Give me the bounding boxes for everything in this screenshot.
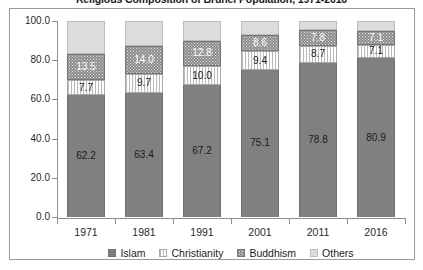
bar-segment-christianity[interactable]: 8.7 <box>299 46 337 63</box>
bar-value-label: 9.4 <box>253 56 267 66</box>
y-axis-tick <box>52 21 57 22</box>
bar-column[interactable]: 75.19.48.6 <box>241 21 279 217</box>
bar-value-label: 7.1 <box>369 33 383 43</box>
bar-segment-islam[interactable]: 75.1 <box>241 70 279 217</box>
y-axis-labels: 0.020.040.060.080.0100.0 <box>10 9 50 219</box>
bar-value-label: 12.8 <box>192 48 211 58</box>
x-axis-labels: 197119811991200120112016 <box>57 226 405 242</box>
bar-value-label: 63.4 <box>134 150 153 160</box>
x-axis-tick-label: 1991 <box>190 226 213 238</box>
bar-segment-islam[interactable]: 62.2 <box>67 95 105 217</box>
legend-item-others[interactable]: Others <box>310 247 354 259</box>
legend-swatch-icon <box>310 249 318 257</box>
bar-segment-buddhism[interactable]: 13.5 <box>67 54 105 80</box>
bar-segment-others[interactable] <box>183 21 221 41</box>
y-axis-tick-label: 40.0 <box>14 133 50 144</box>
bar-segment-christianity[interactable]: 9.7 <box>125 74 163 93</box>
bar-value-label: 62.2 <box>76 151 95 161</box>
bar-segment-islam[interactable]: 67.2 <box>183 85 221 217</box>
y-axis-tick <box>52 178 57 179</box>
bar-segment-islam[interactable]: 78.8 <box>299 63 337 217</box>
bar-segment-buddhism[interactable]: 14.0 <box>125 46 163 73</box>
bar-segment-others[interactable] <box>125 21 163 46</box>
bar-value-label: 67.2 <box>192 146 211 156</box>
bar-value-label: 7.7 <box>79 83 93 93</box>
y-axis-tick <box>52 60 57 61</box>
bar-segment-buddhism[interactable]: 8.6 <box>241 35 279 52</box>
bar-value-label: 78.8 <box>308 135 327 145</box>
bar-segment-buddhism[interactable]: 7.1 <box>357 31 395 45</box>
legend-label: Buddhism <box>249 247 296 259</box>
bar-segment-christianity[interactable]: 7.1 <box>357 45 395 59</box>
x-axis-tick-label: 2016 <box>364 226 387 238</box>
bar-column[interactable]: 62.27.713.5 <box>67 21 105 217</box>
bar-segment-christianity[interactable]: 7.7 <box>67 80 105 95</box>
chart-legend: IslamChristianityBuddhismOthers <box>57 245 405 261</box>
bar-value-label: 7.1 <box>369 46 383 56</box>
bar-value-label: 14.0 <box>134 55 153 65</box>
y-axis-tick <box>52 99 57 100</box>
y-axis-tick-label: 20.0 <box>14 172 50 183</box>
bar-segment-christianity[interactable]: 9.4 <box>241 51 279 69</box>
bar-segment-others[interactable] <box>357 21 395 31</box>
bar-column[interactable]: 78.88.77.8 <box>299 21 337 217</box>
x-axis-tick-label: 1981 <box>132 226 155 238</box>
bar-segment-others[interactable] <box>67 21 105 54</box>
x-axis-tick <box>115 219 116 224</box>
x-axis-tick <box>289 219 290 224</box>
bar-value-label: 7.8 <box>311 33 325 43</box>
x-axis-tick-label: 2001 <box>248 226 271 238</box>
y-axis-tick <box>52 217 57 218</box>
x-axis-tick <box>57 219 58 224</box>
x-axis-tick <box>231 219 232 224</box>
bar-column[interactable]: 67.210.012.8 <box>183 21 221 217</box>
x-axis-tick <box>173 219 174 224</box>
x-axis-tick <box>347 219 348 224</box>
bar-segment-others[interactable] <box>241 21 279 35</box>
legend-label: Christianity <box>171 247 223 259</box>
legend-label: Islam <box>120 247 145 259</box>
bar-value-label: 13.5 <box>76 62 95 72</box>
x-axis-tick-label: 1971 <box>74 226 97 238</box>
legend-item-buddhism[interactable]: Buddhism <box>237 247 296 259</box>
bar-value-label: 10.0 <box>192 71 211 81</box>
plot-area: 62.27.713.563.49.714.067.210.012.875.19.… <box>57 21 405 217</box>
y-axis-tick <box>52 139 57 140</box>
bar-segment-christianity[interactable]: 10.0 <box>183 66 221 86</box>
legend-label: Others <box>322 247 354 259</box>
bar-value-label: 75.1 <box>250 138 269 148</box>
legend-item-christianity[interactable]: Christianity <box>159 247 223 259</box>
bar-segment-islam[interactable]: 63.4 <box>125 93 163 217</box>
chart-frame: 0.020.040.060.080.0100.0 197119811991200… <box>9 8 415 260</box>
legend-swatch-icon <box>237 249 245 257</box>
chart-title: Religious Composition of Brunei Populati… <box>0 0 423 5</box>
legend-swatch-icon <box>159 249 167 257</box>
legend-swatch-icon <box>108 249 116 257</box>
bar-value-label: 9.7 <box>137 78 151 88</box>
bar-column[interactable]: 63.49.714.0 <box>125 21 163 217</box>
bar-segment-buddhism[interactable]: 12.8 <box>183 41 221 66</box>
y-axis-tick-label: 100.0 <box>14 15 50 26</box>
bar-value-label: 80.9 <box>366 133 385 143</box>
y-axis-tick-label: 60.0 <box>14 93 50 104</box>
chart-screenshot: Religious Composition of Brunei Populati… <box>0 0 423 270</box>
bar-value-label: 8.7 <box>311 49 325 59</box>
bar-column[interactable]: 80.97.17.1 <box>357 21 395 217</box>
x-axis-tick <box>405 219 406 224</box>
y-axis-tick-label: 80.0 <box>14 54 50 65</box>
x-axis-tick-label: 2011 <box>307 226 330 238</box>
bar-segment-others[interactable] <box>299 21 337 30</box>
bar-value-label: 8.6 <box>253 38 267 48</box>
bar-segment-islam[interactable]: 80.9 <box>357 58 395 217</box>
bar-segment-buddhism[interactable]: 7.8 <box>299 30 337 45</box>
y-axis-tick-label: 0.0 <box>14 211 50 222</box>
legend-item-islam[interactable]: Islam <box>108 247 145 259</box>
